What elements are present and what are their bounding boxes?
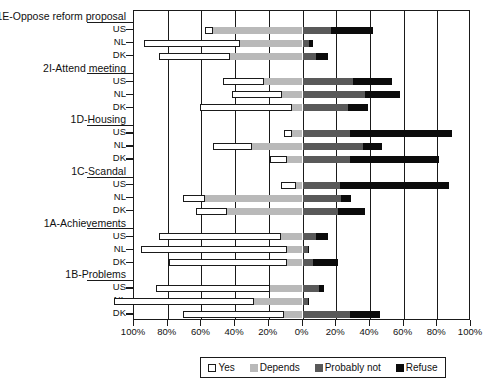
segment-yes [284,130,292,137]
segment-depends [281,233,303,240]
segment-refuse [331,27,373,34]
legend-swatch-icon [315,364,323,372]
chart-legend: YesDependsProbably notRefuse [200,357,446,378]
y-tick [126,55,133,56]
country-label-us: US [113,24,126,34]
y-tick [126,158,133,159]
bar-row [134,127,469,140]
segment-depends [230,53,302,60]
group-label: 1A-Achievements [44,218,126,229]
segment-yes [183,195,205,202]
y-axis-label-column: 1E-Oppose reform proposalUSNLDK2I-Attend… [0,10,133,320]
country-label-us: US [113,179,126,189]
y-tick [126,145,133,146]
segment-probably-not [303,259,313,266]
bar-row [134,295,469,308]
diverging-stacked-bar-chart: 1E-Oppose reform proposalUSNLDK2I-Attend… [0,0,492,387]
segment-depends [284,311,303,318]
segment-refuse [309,40,312,47]
group-label: 1B-Problems [65,269,126,280]
group-separator [87,125,133,126]
segment-yes [141,246,288,253]
legend-item: Depends [250,362,300,373]
x-tick-label: 60% [393,326,412,337]
segment-depends [227,208,303,215]
segment-depends [252,143,303,150]
segment-yes [196,208,226,215]
segment-refuse [308,246,310,253]
bar-row [134,230,469,243]
legend-item: Probably not [315,362,381,373]
y-tick [126,29,133,30]
segment-depends [205,195,303,202]
legend-swatch-icon [250,364,258,372]
x-tick-label: 60% [191,326,210,337]
bar-row [134,256,469,269]
bar-row [134,24,469,37]
segment-refuse [308,298,310,305]
y-tick [126,262,133,263]
x-tick-label: 80% [427,326,446,337]
legend-label: Probably not [325,362,381,373]
country-label-us: US [113,127,126,137]
country-label-nl: NL [114,192,126,202]
segment-depends [213,27,302,34]
bar-row [134,88,469,101]
legend-item: Yes [208,362,234,373]
y-tick [126,94,133,95]
segment-depends [287,259,302,266]
segment-probably-not [303,130,350,137]
segment-refuse [365,91,400,98]
segment-depends [296,182,303,189]
country-label-us: US [113,76,126,86]
country-label-dk: DK [113,257,126,267]
x-tick-label: 40% [359,326,378,337]
segment-yes [156,285,271,292]
y-tick [126,210,133,211]
group-separator [87,177,133,178]
segment-probably-not [303,156,350,163]
bar-row [134,192,469,205]
x-tick-label: 40% [225,326,244,337]
segment-yes [281,182,296,189]
segment-probably-not [303,311,350,318]
segment-yes [144,40,240,47]
segment-probably-not [303,27,332,34]
y-tick [126,249,133,250]
segment-probably-not [303,208,338,215]
bar-row [134,101,469,114]
segment-probably-not [303,182,340,189]
segment-yes [114,298,254,305]
segment-refuse [338,208,365,215]
segment-depends [240,40,302,47]
y-tick [126,236,133,237]
country-label-nl: NL [114,89,126,99]
segment-refuse [319,285,324,292]
segment-probably-not [303,78,354,85]
segment-refuse [341,195,351,202]
country-label-dk: DK [113,102,126,112]
segment-refuse [313,259,338,266]
y-tick [126,184,133,185]
group-label: 1E-Oppose reform proposal [0,11,126,22]
segment-yes [183,311,284,318]
bar-row [134,243,469,256]
country-label-dk: DK [113,205,126,215]
legend-swatch-icon [208,364,216,372]
group-label: 1C-Scandal [71,166,126,177]
segment-depends [270,285,302,292]
segment-probably-not [303,143,364,150]
segment-probably-not [303,285,320,292]
segment-refuse [363,143,382,150]
group-separator [87,280,133,281]
y-tick [126,81,133,82]
x-tick-label: 0% [295,326,309,337]
segment-refuse [353,78,392,85]
bar-row [134,50,469,63]
bar-row [134,153,469,166]
y-tick [126,107,133,108]
country-label-us: US [113,282,126,292]
segment-probably-not [303,195,342,202]
bar-row [134,282,469,295]
x-axis-tick-labels: 100%80%60%40%20%0%20%40%60%80%100% [100,326,492,342]
